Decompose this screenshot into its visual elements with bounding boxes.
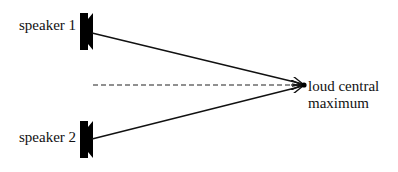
speaker-2-icon — [80, 121, 93, 158]
speaker-2-label: speaker 2 — [19, 129, 76, 145]
target-label-line1: loud central — [308, 78, 379, 94]
ray-speaker-1 — [92, 33, 303, 84]
target-label-line2: maximum — [308, 95, 369, 111]
ray-speaker-2 — [92, 86, 303, 139]
speaker-1-label: speaker 1 — [19, 17, 76, 33]
central-maximum-dot — [301, 82, 306, 87]
interference-diagram: speaker 1 speaker 2 loud central maximum — [0, 0, 398, 172]
speaker-1-icon — [80, 13, 93, 50]
